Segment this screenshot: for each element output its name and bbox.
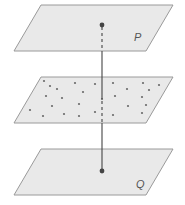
- scatter-dot: [45, 95, 47, 97]
- scatter-dot: [94, 83, 96, 85]
- scatter-dot: [158, 84, 160, 86]
- scatter-dot: [141, 112, 143, 114]
- scatter-dot: [142, 82, 144, 84]
- diagram-canvas: P Q: [0, 0, 185, 205]
- scatter-dot: [112, 114, 114, 116]
- point-on-p: [100, 23, 105, 28]
- scatter-dot: [56, 88, 58, 90]
- plane-middle: [14, 77, 173, 123]
- scatter-dot: [61, 97, 63, 99]
- scatter-dot: [126, 88, 128, 90]
- scatter-dot: [114, 95, 116, 97]
- scatter-dot: [74, 82, 76, 84]
- scatter-dot: [94, 111, 96, 113]
- scatter-dot: [141, 96, 143, 98]
- scatter-dot: [148, 89, 150, 91]
- scatter-dot: [78, 103, 80, 105]
- plane-q-label: Q: [136, 178, 145, 190]
- scatter-dot: [82, 91, 84, 93]
- scatter-dot: [42, 115, 44, 117]
- scatter-dot: [127, 105, 129, 107]
- three-planes-diagram: P Q: [0, 0, 185, 205]
- plane-p: [14, 5, 173, 51]
- scatter-dot: [49, 85, 51, 87]
- plane-q: [14, 149, 173, 195]
- scatter-dot: [78, 115, 80, 117]
- plane-p-label: P: [134, 31, 142, 43]
- scatter-dot: [29, 109, 31, 111]
- point-on-q: [100, 169, 105, 174]
- scatter-dot: [63, 113, 65, 115]
- scatter-dot: [51, 105, 53, 107]
- scatter-dot: [112, 82, 114, 84]
- scatter-dot: [43, 80, 45, 82]
- scatter-dot: [145, 104, 147, 106]
